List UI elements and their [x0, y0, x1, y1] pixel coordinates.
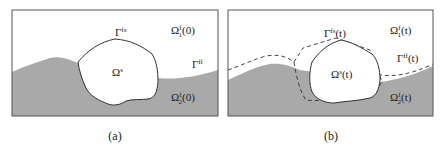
label-gamma-fs-b: Γfs(t) — [324, 27, 346, 40]
label-omega-s-b: Ωs(t) — [331, 68, 353, 81]
diagram-canvas: Γfs Ωf1(0) Γff Ωs Ωf2(0) (a) Γfs(t) Ωf1(… — [0, 0, 445, 153]
panel-a: Γfs Ωf1(0) Γff Ωs Ωf2(0) (a) — [12, 10, 218, 143]
caption-a: (a) — [108, 129, 121, 143]
caption-b: (b) — [324, 129, 338, 143]
panel-b: Γfs(t) Ωf1(t) Γff(t) Ωs(t) Ωf2(t) (b) — [228, 10, 433, 143]
label-gamma-ff-b: Γff(t) — [397, 52, 419, 65]
